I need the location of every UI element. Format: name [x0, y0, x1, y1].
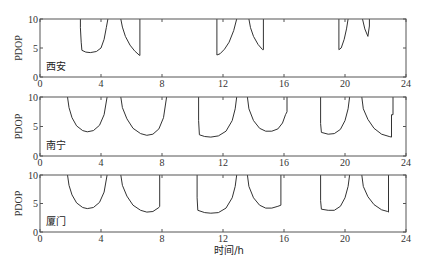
- y-tick-label: 10: [28, 92, 38, 103]
- x-tick-label: 0: [38, 78, 43, 89]
- x-tick-label: 20: [340, 78, 350, 89]
- y-axis-label: PDOP: [13, 35, 24, 61]
- x-axis-label: 时间/h: [214, 244, 244, 256]
- pdop-curve-segment: [68, 175, 108, 209]
- pdop-chart: 048121620240510PDOP西安048121620240510PDOP…: [0, 0, 421, 267]
- pdop-curve-segment: [339, 19, 348, 50]
- x-tick-label: 4: [99, 233, 104, 244]
- x-tick-label: 8: [160, 78, 165, 89]
- x-tick-label: 4: [99, 157, 104, 168]
- y-tick-label: 0: [33, 227, 38, 238]
- x-tick-label: 4: [99, 78, 104, 89]
- x-tick-label: 20: [340, 157, 350, 168]
- x-tick-label: 16: [279, 157, 289, 168]
- panel-2: 048121620240510PDOP南宁: [13, 92, 411, 169]
- x-tick-label: 24: [401, 157, 411, 168]
- pdop-curve-segment: [363, 19, 370, 36]
- x-tick-label: 0: [38, 233, 43, 244]
- x-tick-label: 20: [340, 233, 350, 244]
- pdop-curve-segment: [362, 175, 389, 212]
- pdop-curve-segment: [321, 175, 350, 210]
- x-tick-label: 16: [279, 233, 289, 244]
- axes-frame: [40, 175, 406, 232]
- x-tick-label: 16: [279, 78, 289, 89]
- pdop-curve-segment: [247, 97, 287, 131]
- y-axis-label: PDOP: [13, 190, 24, 216]
- y-tick-label: 5: [33, 198, 38, 209]
- pdop-curve-segment: [68, 97, 108, 132]
- y-tick-label: 10: [28, 14, 38, 25]
- x-tick-label: 12: [218, 233, 228, 244]
- pdop-curve-segment: [199, 97, 237, 137]
- x-tick-label: 0: [38, 157, 43, 168]
- panel-3: 048121620240510PDOP厦门时间/h: [13, 170, 411, 257]
- panel-city-label: 西安: [46, 60, 66, 72]
- x-tick-label: 24: [401, 78, 411, 89]
- x-tick-label: 8: [160, 233, 165, 244]
- pdop-curve-segment: [121, 19, 140, 56]
- x-tick-label: 24: [401, 233, 411, 244]
- pdop-curve-segment: [80, 19, 108, 53]
- pdop-curve-segment: [121, 175, 160, 212]
- x-tick-label: 12: [218, 157, 228, 168]
- pdop-curve-segment: [197, 175, 237, 213]
- pdop-curve-segment: [362, 97, 393, 137]
- panel-city-label: 厦门: [46, 215, 66, 227]
- panels: 048121620240510PDOP西安048121620240510PDOP…: [13, 14, 411, 257]
- y-tick-label: 0: [33, 151, 38, 162]
- axes-frame: [40, 97, 406, 156]
- axes-frame: [40, 19, 406, 77]
- x-tick-label: 12: [218, 78, 228, 89]
- pdop-curve-segment: [217, 19, 237, 55]
- pdop-curve-segment: [247, 175, 281, 208]
- panel-city-label: 南宁: [46, 139, 66, 151]
- y-tick-label: 0: [33, 72, 38, 83]
- pdop-curve-segment: [249, 19, 264, 50]
- y-axis-label: PDOP: [13, 113, 24, 139]
- pdop-curve-segment: [121, 97, 167, 135]
- pdop-curve-segment: [321, 97, 350, 134]
- panel-1: 048121620240510PDOP西安: [13, 14, 411, 90]
- y-tick-label: 5: [33, 121, 38, 132]
- y-tick-label: 10: [28, 170, 38, 181]
- y-tick-label: 5: [33, 43, 38, 54]
- x-tick-label: 8: [160, 157, 165, 168]
